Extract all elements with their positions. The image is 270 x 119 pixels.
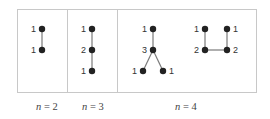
- caption-value: = 3: [87, 101, 103, 112]
- node-label: 1: [194, 24, 199, 34]
- tree-node: [140, 68, 146, 74]
- caption-n4: n = 4: [175, 101, 197, 112]
- tree-edge: [153, 50, 163, 71]
- node-label: 2: [194, 45, 199, 55]
- tree-node: [160, 68, 166, 74]
- node-label: 1: [132, 66, 137, 76]
- tree-node: [89, 47, 95, 53]
- node-label: 1: [142, 24, 147, 34]
- node-label: 1: [31, 45, 36, 55]
- caption-value: = 4: [180, 101, 197, 112]
- tree-node: [224, 47, 230, 53]
- tree-node: [202, 26, 208, 32]
- tree-p2-t0: 1311: [132, 24, 174, 76]
- node-label: 1: [233, 24, 238, 34]
- trees-diagram: 1112113111221 n = 2 n = 3 n = 4: [0, 0, 270, 119]
- graph-layer: 1112113111221: [31, 24, 238, 76]
- node-label: 2: [81, 45, 86, 55]
- node-label: 3: [142, 45, 147, 55]
- diagram-frame: [18, 10, 257, 93]
- tree-p2-t1: 1221: [194, 24, 238, 55]
- tree-node: [150, 26, 156, 32]
- tree-p0-t0: 11: [31, 24, 45, 55]
- tree-node: [39, 26, 45, 32]
- caption-value: = 2: [41, 101, 57, 112]
- tree-node: [202, 47, 208, 53]
- tree-node: [89, 68, 95, 74]
- caption-n2: n = 2: [36, 101, 58, 112]
- tree-node: [89, 26, 95, 32]
- caption-n3: n = 3: [82, 101, 104, 112]
- tree-node: [39, 47, 45, 53]
- node-label: 1: [81, 24, 86, 34]
- node-label: 1: [81, 66, 86, 76]
- tree-node: [150, 47, 156, 53]
- tree-node: [224, 26, 230, 32]
- node-label: 1: [31, 24, 36, 34]
- node-label: 2: [233, 45, 238, 55]
- tree-p1-t0: 121: [81, 24, 95, 76]
- node-label: 1: [169, 66, 174, 76]
